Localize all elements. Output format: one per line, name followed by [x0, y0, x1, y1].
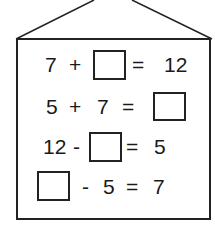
operator: - [82, 170, 89, 204]
operator: + [69, 90, 81, 124]
answer-box[interactable] [93, 50, 126, 80]
answer-box[interactable] [37, 171, 70, 201]
result: 5 [154, 130, 166, 164]
operand-b: 7 [97, 90, 109, 124]
equals: = [132, 48, 144, 82]
equals: = [122, 90, 134, 124]
equals: = [126, 130, 138, 164]
equation-2: 5 + 7 = [18, 90, 209, 124]
house-box: 7 + = 12 5 + 7 = 12 - = 5 - 5 = 7 [16, 38, 211, 220]
operator: + [69, 48, 81, 82]
operand-a: 5 [46, 90, 58, 124]
equation-1: 7 + = 12 [18, 48, 209, 82]
roof [0, 0, 215, 40]
operator: - [73, 130, 80, 164]
operand-a: 12 [43, 130, 66, 164]
equals: = [126, 170, 138, 204]
operand-b: 5 [103, 170, 115, 204]
result: 7 [153, 170, 165, 204]
result: 12 [164, 48, 187, 82]
answer-box[interactable] [153, 92, 186, 121]
equation-3: 12 - = 5 [18, 130, 209, 164]
equation-4: - 5 = 7 [18, 170, 209, 204]
operand-a: 7 [45, 48, 57, 82]
answer-box[interactable] [89, 132, 122, 162]
